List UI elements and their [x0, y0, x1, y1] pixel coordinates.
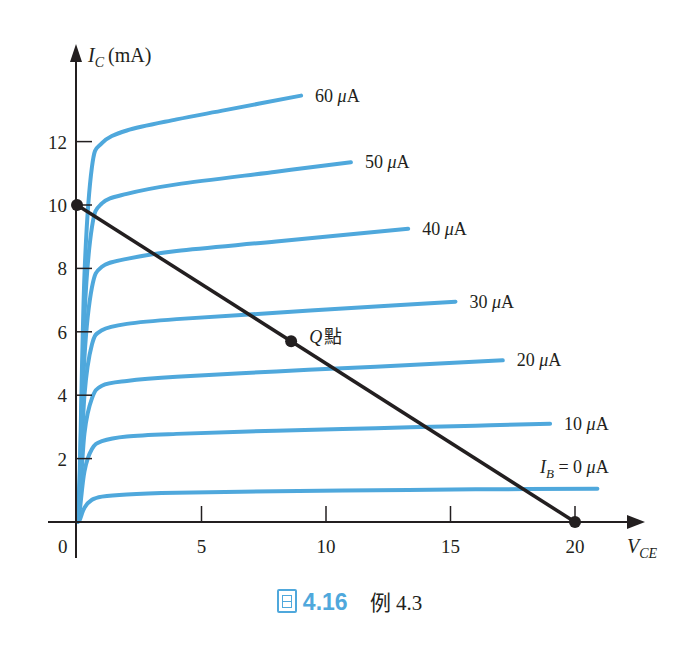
ib-curve [77, 229, 408, 522]
y-tick-label: 4 [58, 385, 68, 406]
x-tick-label: 15 [441, 536, 460, 557]
y-tick-label: 6 [58, 322, 68, 343]
q-point-label: Q點 [309, 326, 342, 347]
ib-curve [77, 96, 301, 522]
operating-point [71, 199, 83, 211]
x-tick-label: 5 [197, 536, 207, 557]
origin-label: 0 [58, 536, 68, 557]
curve-label: 60 μA [315, 86, 360, 106]
curve-label: 20 μA [517, 350, 562, 370]
curve-label: 40 μA [422, 219, 467, 239]
load-line-segment [77, 205, 575, 522]
curve-label: IB = 0 μA [539, 457, 609, 481]
x-axis-title: VCE [627, 535, 658, 561]
y-axis-arrow-icon [70, 44, 82, 62]
y-tick-label: 10 [48, 195, 67, 216]
figure-number: 4.16 [303, 589, 348, 615]
curve-label: 10 μA [564, 414, 609, 434]
curve-labels: IB = 0 μA10 μA20 μA30 μA40 μA50 μA60 μA [315, 86, 609, 481]
x-axis-arrow-icon [627, 515, 645, 529]
axes [48, 44, 645, 558]
load-line: Q點 [71, 199, 581, 528]
ib-curve [77, 424, 550, 522]
operating-point [569, 516, 581, 528]
y-axis-title: IC(mA) [87, 44, 151, 70]
figure-icon [277, 589, 297, 613]
y-tick-label: 12 [48, 132, 67, 153]
y-tick-label: 2 [58, 449, 68, 470]
y-tick-label: 8 [58, 258, 68, 279]
figure-text: 例 4.3 [370, 591, 423, 615]
ib-curves [77, 96, 597, 522]
ib-curve [77, 360, 503, 522]
operating-point [285, 335, 297, 347]
figure-caption: 4.16例 4.3 [0, 586, 699, 616]
curve-label: 50 μA [365, 152, 410, 172]
x-tick-label: 10 [317, 536, 336, 557]
x-tick-label: 20 [566, 536, 585, 557]
curve-label: 30 μA [469, 292, 514, 312]
bjt-output-characteristics-chart: 510152024681012 Q點 IB = 0 μA10 μA20 μA30… [0, 0, 699, 658]
ib-curve [77, 489, 597, 522]
